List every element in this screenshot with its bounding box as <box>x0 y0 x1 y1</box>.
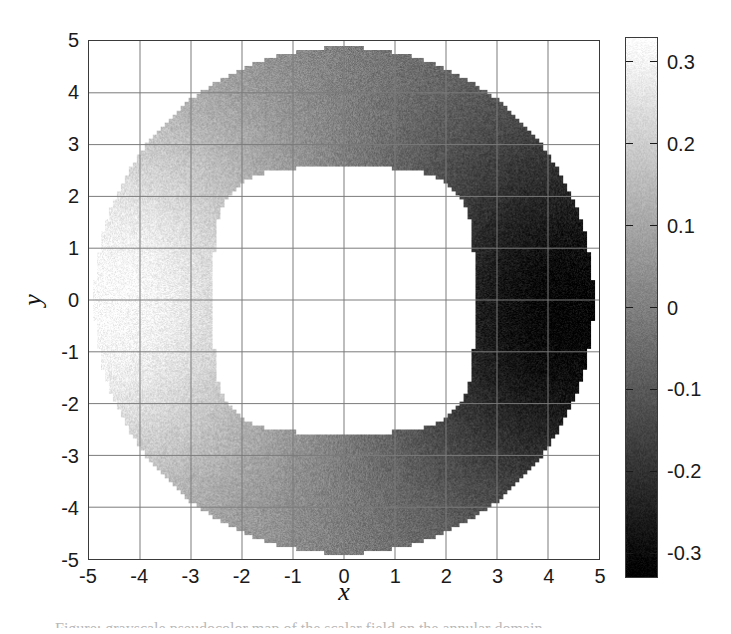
x-tick-label: 4 <box>543 566 554 586</box>
y-tick-label: -3 <box>61 446 79 466</box>
colorbar-tick-label: 0 <box>667 298 678 318</box>
x-tick-label: -5 <box>79 566 97 586</box>
y-tick-label: -5 <box>61 550 79 570</box>
colorbar-tick-label: -0.1 <box>667 379 701 399</box>
x-tick-label: 5 <box>594 566 605 586</box>
colorbar-tick-mark <box>650 307 657 308</box>
y-tick-label: 5 <box>68 30 79 50</box>
colorbar-tick-mark <box>626 143 633 144</box>
x-tick-label: 2 <box>441 566 452 586</box>
colorbar-tick-label: 0.1 <box>667 216 695 236</box>
colorbar-tick-mark <box>650 225 657 226</box>
y-tick-label: -2 <box>61 394 79 414</box>
colorbar-tick-mark <box>650 61 657 62</box>
colorbar-tick-mark <box>626 307 633 308</box>
y-axis-label: y <box>18 294 48 306</box>
x-tick-label: -1 <box>284 566 302 586</box>
y-tick-label: 3 <box>68 134 79 154</box>
colorbar-tick-mark <box>650 553 657 554</box>
colorbar-tick-mark <box>650 471 657 472</box>
colorbar-tick-mark <box>626 471 633 472</box>
colorbar-tick-label: 0.2 <box>667 134 695 154</box>
colorbar-tick-label: -0.2 <box>667 461 701 481</box>
y-tick-label: -4 <box>61 498 79 518</box>
figure-canvas: 543210-1-2-3-4-5 -5-4-3-2-1012345 y x 0.… <box>0 0 731 634</box>
y-tick-label: 2 <box>68 186 79 206</box>
colorbar-tick-mark <box>626 553 633 554</box>
x-tick-label: -2 <box>233 566 251 586</box>
y-tick-label: 0 <box>68 290 79 310</box>
colorbar-tick-label: -0.3 <box>667 543 701 563</box>
y-tick-label: 1 <box>68 238 79 258</box>
x-tick-label: -3 <box>181 566 199 586</box>
plot-axes <box>88 40 600 560</box>
colorbar-tick-mark <box>650 389 657 390</box>
x-tick-label: -4 <box>130 566 148 586</box>
caption-sliver: Figure: grayscale pseudocolor map of the… <box>55 620 695 628</box>
y-tick-label: -1 <box>61 342 79 362</box>
heatmap-image <box>89 41 599 559</box>
x-axis-label: x <box>338 577 350 607</box>
y-tick-label: 4 <box>68 82 79 102</box>
colorbar-tick-mark <box>650 143 657 144</box>
colorbar-tick-label: 0.3 <box>667 52 695 72</box>
x-tick-label: 1 <box>390 566 401 586</box>
colorbar-tick-mark <box>626 225 633 226</box>
colorbar-tick-mark <box>626 389 633 390</box>
colorbar-tick-mark <box>626 61 633 62</box>
x-tick-label: 3 <box>492 566 503 586</box>
